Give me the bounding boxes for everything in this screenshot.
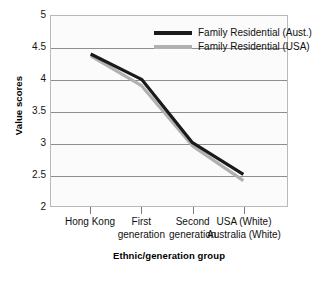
x-tick [244,207,245,214]
y-tick-label: 2 [22,202,46,212]
x-category-label: USA (White)Australia (White) [192,216,296,241]
x-category-label-line: Australia (White) [192,229,296,242]
legend-color-swatch [154,31,192,35]
x-tick [193,207,194,214]
x-axis-ticks [50,207,288,215]
legend-color-swatch [154,45,192,49]
x-axis-title: Ethnic/generation group [50,250,288,261]
y-tick-label: 5 [22,10,46,20]
y-axis-tick-labels: 22.533.544.55 [22,0,46,282]
legend-item: Family Residential (USA) [154,40,334,53]
y-tick-label: 3.5 [22,106,46,116]
series-line [91,56,244,181]
line-chart: Value scores 22.533.544.55 Hong KongFirs… [0,0,336,282]
x-category-label-line: USA (White) [192,216,296,229]
legend-label: Family Residential (Aust.) [198,27,312,38]
legend: Family Residential (Aust.)Family Residen… [154,26,334,54]
legend-label: Family Residential (USA) [198,41,310,52]
legend-item: Family Residential (Aust.) [154,26,334,39]
x-axis-tick-labels: Hong KongFirstgenerationSecondgeneration… [44,216,336,250]
y-tick-label: 4.5 [22,42,46,52]
x-tick [141,207,142,214]
y-tick-label: 3 [22,138,46,148]
y-tick-label: 4 [22,74,46,84]
x-tick [90,207,91,214]
y-tick-label: 2.5 [22,170,46,180]
